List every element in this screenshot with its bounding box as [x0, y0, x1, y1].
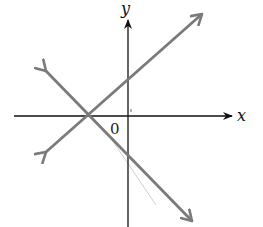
diagram-svg: y x 0: [0, 0, 263, 227]
y-axis-label: y: [120, 0, 131, 18]
line-negative-slope: [46, 71, 192, 221]
line-positive-slope: [46, 14, 202, 152]
faint-guide-line: [108, 134, 156, 205]
coordinate-diagram: y x 0: [0, 0, 263, 227]
x-axis-label: x: [237, 106, 246, 125]
origin-label: 0: [110, 120, 120, 138]
